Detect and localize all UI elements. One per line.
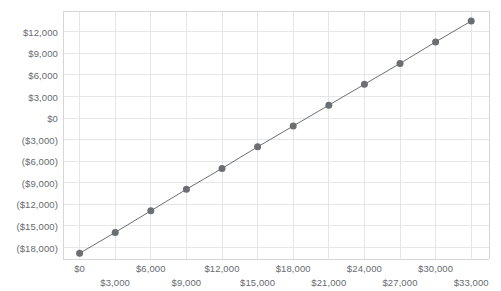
x-tick-label: $21,000: [311, 277, 346, 288]
x-tick-label: $18,000: [276, 263, 311, 274]
x-tick-label: $0: [74, 263, 85, 274]
x-tick-label: $27,000: [382, 277, 417, 288]
plot-area: [0, 0, 501, 291]
data-point[interactable]: [361, 81, 368, 88]
y-tick-label: ($18,000): [16, 242, 58, 253]
x-tick-label: $15,000: [240, 277, 275, 288]
y-tick-label: ($3,000): [22, 134, 58, 145]
data-point[interactable]: [147, 207, 154, 214]
data-point[interactable]: [290, 123, 297, 130]
x-tick-label: $24,000: [347, 263, 382, 274]
data-point[interactable]: [254, 143, 261, 150]
y-tick-label: $12,000: [23, 26, 58, 37]
data-point[interactable]: [325, 102, 332, 109]
scatter-chart: $12,000$9,000$6,000$3,000$0($3,000)($6,0…: [0, 0, 501, 291]
x-tick-label: $6,000: [136, 263, 166, 274]
y-tick-label: ($12,000): [16, 199, 58, 210]
x-tick-label: $33,000: [454, 277, 489, 288]
x-tick-label: $12,000: [204, 263, 239, 274]
y-tick-label: $0: [47, 113, 58, 124]
series-line: [80, 21, 472, 253]
x-tick-label: $3,000: [100, 277, 130, 288]
y-tick-label: ($9,000): [22, 177, 58, 188]
y-tick-label: $9,000: [28, 48, 58, 59]
data-point[interactable]: [397, 60, 404, 67]
data-point[interactable]: [76, 250, 83, 257]
x-tick-label: $30,000: [418, 263, 453, 274]
y-tick-label: $6,000: [28, 70, 58, 81]
data-point[interactable]: [112, 229, 119, 236]
y-tick-label: ($6,000): [22, 156, 58, 167]
x-tick-label: $9,000: [172, 277, 202, 288]
y-tick-label: $3,000: [28, 91, 58, 102]
data-point[interactable]: [219, 165, 226, 172]
y-tick-label: ($15,000): [16, 220, 58, 231]
data-point[interactable]: [468, 18, 475, 25]
data-point[interactable]: [432, 38, 439, 45]
data-point[interactable]: [183, 186, 190, 193]
